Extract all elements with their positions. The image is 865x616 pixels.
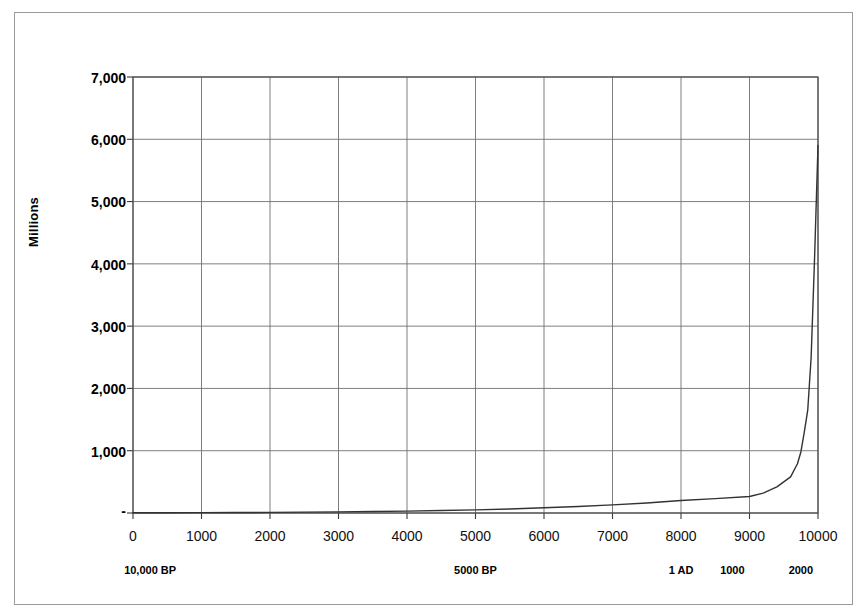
gridlines bbox=[133, 77, 818, 513]
chart-plot bbox=[0, 0, 865, 616]
axis-ticks bbox=[127, 77, 818, 519]
